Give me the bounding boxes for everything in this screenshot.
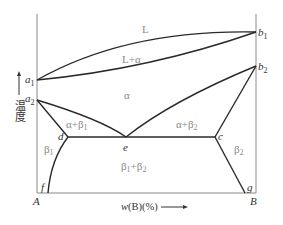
x-axis-label: w(B)(%) bbox=[121, 201, 158, 213]
point-b2: b2 bbox=[258, 60, 268, 75]
y-axis-arrow-icon bbox=[17, 71, 21, 76]
x-axis-arrow-icon bbox=[183, 205, 188, 209]
point-a2: a2 bbox=[25, 92, 35, 107]
point-a1: a1 bbox=[25, 73, 35, 88]
y-axis-label: 温度 bbox=[13, 100, 27, 123]
solvus-c-g bbox=[215, 137, 245, 193]
point-b1: b1 bbox=[258, 26, 268, 41]
axis-end-a: A bbox=[32, 195, 40, 207]
region-beta1: β1 bbox=[44, 143, 54, 157]
axis-end-b: B bbox=[250, 195, 257, 207]
region-liquid: L bbox=[142, 23, 149, 35]
region-alpha-beta1: α+β1 bbox=[66, 118, 88, 132]
region-beta1-beta2: β1+β2 bbox=[121, 160, 146, 174]
region-alpha: α bbox=[124, 89, 130, 101]
solvus-d-f bbox=[48, 137, 68, 193]
point-c: c bbox=[218, 130, 223, 142]
liquidus-curve bbox=[37, 32, 256, 80]
region-alpha-beta2: α+β2 bbox=[176, 118, 198, 132]
point-d: d bbox=[58, 130, 64, 142]
point-e: e bbox=[123, 141, 128, 153]
solidus-curve bbox=[37, 32, 256, 80]
point-f: f bbox=[41, 181, 46, 193]
region-beta2: β2 bbox=[234, 143, 244, 157]
solvus-b2-c bbox=[215, 66, 256, 137]
point-g: g bbox=[247, 181, 253, 193]
phase-diagram: a1 a2 b1 b2 d e c f g A B L L+α α α+β1 α… bbox=[0, 0, 283, 225]
region-liquid-alpha: L+α bbox=[122, 53, 141, 65]
